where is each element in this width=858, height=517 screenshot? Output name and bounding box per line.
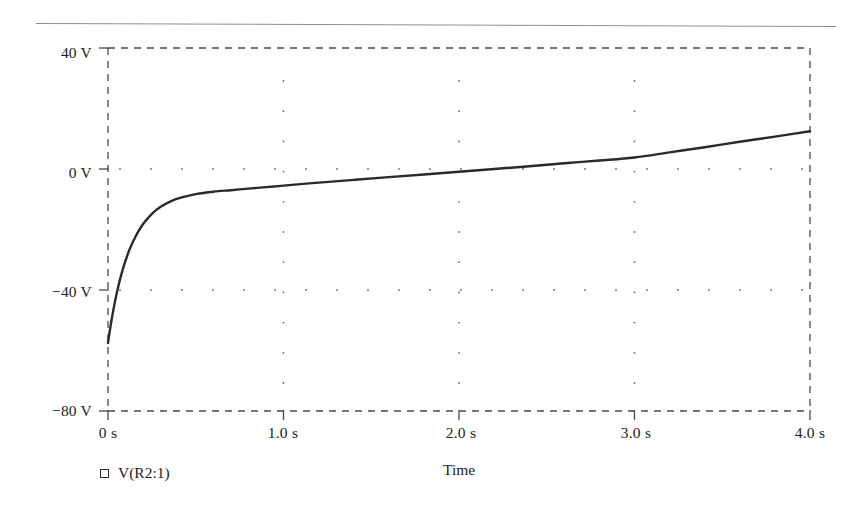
- x-tick-label-3s: 3.0 s: [596, 424, 676, 442]
- grid-horizontal-dots: [119, 168, 803, 291]
- plot-page: 40 V 0 V −40 V −80 V 0 s 1.0 s 2.0 s 3.0…: [0, 0, 858, 517]
- y-tick-label-minus40v: −40 V: [16, 283, 92, 301]
- x-tick-label-0s: 0 s: [68, 424, 148, 442]
- x-tick-label-1s: 1.0 s: [243, 424, 323, 442]
- x-tick-label-2s: 2.0 s: [421, 424, 501, 442]
- legend-label: V(R2:1): [118, 464, 170, 482]
- grid-vertical-dots: [283, 80, 636, 384]
- axis-tick-marks: [99, 48, 810, 420]
- y-tick-label-minus80v: −80 V: [16, 402, 92, 420]
- legend[interactable]: V(R2:1): [100, 462, 170, 484]
- plot-border: [108, 48, 810, 411]
- x-axis-title: Time: [443, 461, 475, 479]
- x-tick-label-4s: 4.0 s: [770, 424, 850, 442]
- legend-square-icon: [100, 469, 109, 478]
- y-tick-label-40v: 40 V: [16, 44, 92, 62]
- data-trace-v-r2-1: [108, 131, 810, 343]
- y-tick-label-0v: 0 V: [16, 164, 92, 182]
